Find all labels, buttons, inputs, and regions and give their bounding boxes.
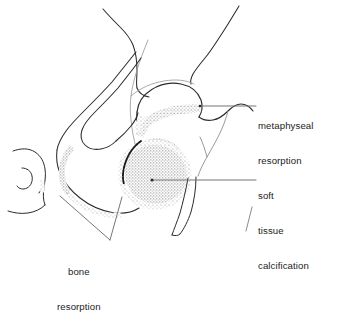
soft-tissue-calcification-zone <box>120 138 189 207</box>
annotation-soft-tissue-line2: tissue <box>258 225 309 237</box>
annotation-metaphyseal-line2: resorption <box>258 155 314 167</box>
annotation-metaphyseal-line1: metaphyseal <box>258 120 314 132</box>
annotation-soft-tissue-line1: soft <box>258 190 309 202</box>
annotation-bone-line1: bone <box>57 266 101 278</box>
annotation-bone-line2: resorption <box>57 301 101 313</box>
annotation-bone-resorption: bone resorption <box>57 243 101 316</box>
leader-soft-tissue-dot <box>151 179 154 182</box>
leader-metaphyseal-dot <box>199 105 202 108</box>
annotation-soft-tissue-calcification: soft tissue calcification <box>258 167 309 295</box>
annotation-soft-tissue-line3: calcification <box>258 260 309 272</box>
left-bone-stipple <box>42 180 43 192</box>
